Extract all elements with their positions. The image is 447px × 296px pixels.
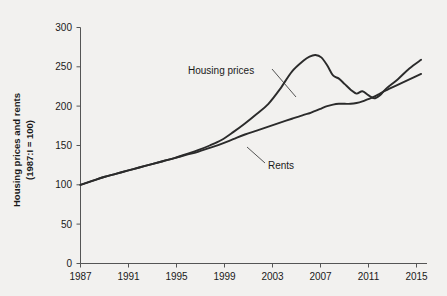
y-tick-label: 50 <box>61 219 73 230</box>
x-tick-label: 1995 <box>165 271 188 282</box>
housing-prices-annotation-label: Housing prices <box>188 65 254 76</box>
x-tick-label: 2007 <box>309 271 332 282</box>
y-tick-label: 200 <box>55 101 72 112</box>
y-tick-label: 300 <box>55 22 72 33</box>
y-tick-label: 250 <box>55 61 72 72</box>
y-axis-title-line1: Housing prices and rents <box>11 93 22 207</box>
rents-annotation-label: Rents <box>268 160 294 171</box>
y-tick-label: 150 <box>55 140 72 151</box>
x-tick-label: 2003 <box>261 271 284 282</box>
x-tick-label: 1987 <box>69 271 92 282</box>
housing-prices-and-rents-chart: Housing prices and rents (1987:I = 100) … <box>0 0 447 296</box>
x-tick-label: 1999 <box>213 271 236 282</box>
x-tick-label: 2015 <box>405 271 428 282</box>
x-tick-label: 1991 <box>117 271 140 282</box>
y-axis-title-line2: (1987:I = 100) <box>24 120 35 180</box>
y-tick-label: 100 <box>55 179 72 190</box>
y-tick-label: 0 <box>66 258 72 269</box>
x-tick-label: 2011 <box>358 271 380 282</box>
